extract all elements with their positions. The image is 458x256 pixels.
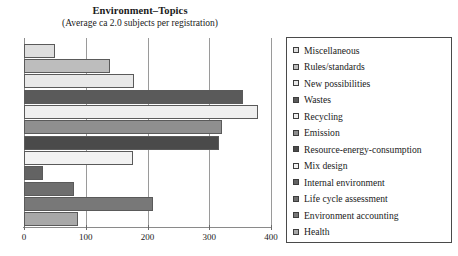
legend-item-label: Mix design: [304, 160, 347, 171]
legend-swatch-icon: [293, 196, 299, 202]
legend-item-label: Recycling: [304, 111, 343, 122]
legend-swatch-icon: [293, 229, 299, 235]
x-tick-label: 0: [22, 232, 27, 242]
legend-swatch-icon: [293, 47, 299, 53]
bar: [24, 44, 55, 58]
gridline: [271, 38, 272, 227]
legend-swatch-icon: [293, 97, 299, 103]
legend-item-label: Health: [304, 226, 330, 237]
legend-list: MiscellaneousRules/standardsNew possibil…: [293, 42, 448, 240]
legend-swatch-icon: [293, 80, 299, 86]
legend-swatch-icon: [293, 130, 299, 136]
legend-item[interactable]: Rules/standards: [293, 59, 448, 76]
bar: [24, 120, 222, 134]
bar: [24, 166, 43, 180]
chart-figure: Environment–Topics (Average ca 2.0 subje…: [0, 0, 458, 256]
bar: [24, 74, 134, 88]
legend-item[interactable]: Miscellaneous: [293, 42, 448, 59]
legend-item[interactable]: Emission: [293, 125, 448, 142]
x-tick-label: 300: [203, 232, 217, 242]
bar: [24, 105, 258, 119]
legend-swatch-icon: [293, 64, 299, 70]
legend-item[interactable]: Internal environment: [293, 174, 448, 191]
x-tick-label: 400: [264, 232, 278, 242]
legend-swatch-icon: [293, 163, 299, 169]
legend: MiscellaneousRules/standardsNew possibil…: [286, 37, 452, 243]
legend-swatch-icon: [293, 146, 299, 152]
legend-item-label: Internal environment: [304, 177, 385, 188]
legend-item[interactable]: Resource-energy-consumption: [293, 141, 448, 158]
legend-swatch-icon: [293, 179, 299, 185]
legend-swatch-icon: [293, 113, 299, 119]
bar: [24, 197, 153, 211]
bar: [24, 90, 243, 104]
x-tick-mark: [271, 225, 272, 230]
legend-item-label: Miscellaneous: [304, 45, 359, 56]
legend-item-label: New possibilities: [304, 78, 370, 89]
legend-item[interactable]: Mix design: [293, 158, 448, 175]
plot-region: 0100200300400: [0, 0, 282, 256]
bars-layer: [24, 43, 271, 227]
legend-item-label: Resource-energy-consumption: [304, 144, 422, 155]
legend-item[interactable]: New possibilities: [293, 75, 448, 92]
legend-item[interactable]: Life cycle assessment: [293, 191, 448, 208]
legend-item-label: Emission: [304, 127, 340, 138]
legend-item[interactable]: Environment accounting: [293, 207, 448, 224]
bar: [24, 212, 78, 226]
legend-item-label: Wastes: [304, 94, 331, 105]
legend-item-label: Environment accounting: [304, 210, 399, 221]
legend-item[interactable]: Wastes: [293, 92, 448, 109]
x-tick-label: 100: [79, 232, 93, 242]
legend-item-label: Rules/standards: [304, 61, 365, 72]
bar: [24, 182, 74, 196]
legend-swatch-icon: [293, 212, 299, 218]
legend-item[interactable]: Recycling: [293, 108, 448, 125]
bar: [24, 59, 110, 73]
bar: [24, 151, 133, 165]
bar: [24, 136, 219, 150]
legend-item-label: Life cycle assessment: [304, 193, 388, 204]
legend-item[interactable]: Health: [293, 224, 448, 241]
x-tick-label: 200: [141, 232, 155, 242]
